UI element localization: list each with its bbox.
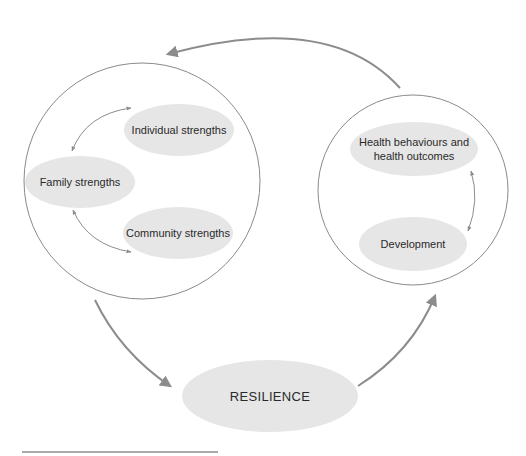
resilience-node: RESILIENCE [182,360,358,432]
individual-strengths-label: Individual strengths [132,124,227,136]
resilience-cycle-diagram: Individual strengths Family strengths Co… [0,0,526,456]
resilience-label: RESILIENCE [230,389,310,404]
development-label: Development [381,238,446,250]
health-outcomes-node: Health behaviours and health outcomes [350,122,478,176]
family-strengths-node: Family strengths [25,156,135,208]
strengths-to-resilience-arrow [95,300,170,386]
outcomes-group: Health behaviours and health outcomes De… [318,95,508,285]
health-outcomes-label-line1: Health behaviours and [359,136,469,148]
family-strengths-label: Family strengths [40,176,121,188]
outcomes-to-strengths-arrow [168,38,400,88]
health-outcomes-label-line2: health outcomes [374,150,455,162]
health-development-arrow [468,171,475,231]
family-community-arrow [73,210,131,252]
community-strengths-label: Community strengths [126,227,230,239]
community-strengths-node: Community strengths [123,207,233,259]
family-individual-arrow [72,108,131,151]
individual-strengths-node: Individual strengths [124,104,234,156]
resilience-to-outcomes-arrow [358,296,435,386]
strengths-group: Individual strengths Family strengths Co… [24,63,260,299]
development-node: Development [359,217,467,271]
